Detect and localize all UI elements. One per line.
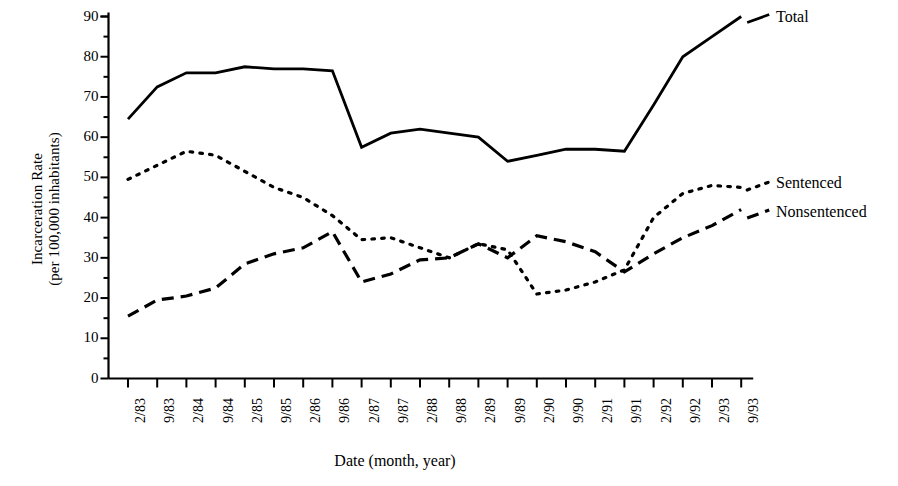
series-label-nonsentenced: Nonsentenced: [776, 203, 867, 221]
plot-area: [0, 0, 898, 486]
leader-sentenced: [747, 182, 769, 190]
x-axis-title: Date (month, year): [0, 452, 790, 470]
series-line-sentenced: [128, 151, 741, 294]
series-label-sentenced: Sentenced: [776, 174, 842, 192]
leader-nonsentenced: [747, 210, 769, 218]
chart-figure: Incarceration Rate (per 100,000 inhabita…: [0, 0, 898, 486]
leader-total: [747, 15, 769, 23]
series-line-nonsentenced: [128, 210, 741, 317]
series-line-total: [128, 17, 741, 162]
series-label-total: Total: [776, 8, 809, 26]
